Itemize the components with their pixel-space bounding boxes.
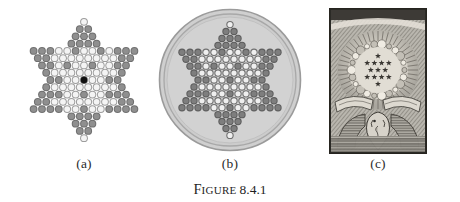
board-hole-dark	[118, 54, 126, 62]
board-hole-dark	[38, 62, 46, 70]
board-hole-light	[76, 54, 84, 62]
board-hole-dark	[84, 25, 92, 33]
board-hole-light	[63, 47, 71, 55]
board-hole-dark	[122, 62, 130, 70]
board-hole-dark	[30, 105, 38, 113]
board-hole-light	[110, 83, 118, 91]
board-hole-dark	[122, 47, 130, 55]
board-hole-light	[55, 62, 63, 70]
board-hole-dark	[230, 42, 237, 49]
board-hole-light	[210, 49, 217, 56]
board-hole-light	[97, 91, 105, 99]
board-hole-light	[76, 69, 84, 77]
board-hole-light	[254, 83, 261, 90]
board-hole-dark	[118, 98, 126, 106]
board-hole-light	[234, 104, 241, 111]
board-hole-light	[97, 62, 105, 70]
board-hole-dark	[105, 76, 113, 84]
board-hole-dark	[218, 49, 225, 56]
cloud-puff	[393, 87, 398, 92]
board-hole-dark	[230, 125, 237, 132]
board-hole-light	[80, 47, 88, 55]
board-hole-light	[202, 62, 209, 69]
board-hole-light	[68, 69, 76, 77]
board-hole-dark	[76, 25, 84, 33]
board-hole-light	[238, 56, 245, 63]
board-hole-dark	[262, 83, 269, 90]
board-hole-light	[51, 54, 59, 62]
board-hole-light	[218, 104, 225, 111]
board-hole-dark	[80, 105, 88, 113]
board-hole-light	[246, 56, 253, 63]
board-hole-dark	[262, 97, 269, 104]
board-hole-light	[234, 49, 241, 56]
board-hole-dark	[72, 32, 80, 40]
board-hole-dark	[76, 127, 84, 135]
board-hole-light	[218, 62, 225, 69]
cloud-puff	[401, 60, 406, 65]
board-hole-light	[89, 91, 97, 99]
board-hole-light	[55, 47, 63, 55]
board-hole-dark	[89, 32, 97, 40]
board-hole-light	[93, 98, 101, 106]
board-hole-dark	[190, 56, 197, 63]
board-hole-dark	[258, 104, 265, 111]
board-hole-dark	[262, 56, 269, 63]
board-hole-dark	[186, 104, 193, 111]
board-hole-dark	[210, 62, 217, 69]
board-hole-light	[59, 54, 67, 62]
board-hole-light	[84, 54, 92, 62]
board-hole-light	[222, 69, 229, 76]
board-hole-light	[250, 49, 257, 56]
board-hole-light	[105, 47, 113, 55]
board-hole-light	[68, 54, 76, 62]
board-hole-light	[242, 62, 249, 69]
board-hole-dark	[226, 118, 233, 125]
board-hole-dark	[194, 104, 201, 111]
board-hole-light	[89, 47, 97, 55]
board-hole-light	[202, 49, 209, 56]
board-hole-dark	[190, 97, 197, 104]
board-hole-dark	[38, 91, 46, 99]
board-hole-dark	[218, 118, 225, 125]
board-hole-light	[80, 18, 88, 26]
board-hole-dark	[250, 76, 257, 83]
board-hole-light	[84, 98, 92, 106]
board-hole-dark	[178, 104, 185, 111]
board-hole-light	[222, 83, 229, 90]
circular-board-svg	[157, 8, 303, 153]
board-hole-light	[230, 69, 237, 76]
board-hole-dark	[114, 47, 122, 55]
board-hole-dark	[72, 120, 80, 128]
board-hole-light	[230, 56, 237, 63]
board-hole-dark	[89, 120, 97, 128]
board-hole-light	[59, 69, 67, 77]
board-hole-light	[97, 105, 105, 113]
board-hole-dark	[114, 91, 122, 99]
sublabel-c: (c)	[308, 156, 448, 172]
board-hole-dark	[202, 104, 209, 111]
board-hole-dark	[258, 49, 265, 56]
board-hole-dark	[84, 127, 92, 135]
board-hole-dark	[55, 91, 63, 99]
figure-caption: FIGURE8.4.1	[0, 180, 460, 198]
board-hole-light	[206, 69, 213, 76]
board-hole-light	[80, 62, 88, 70]
center-peg-icon	[81, 77, 87, 83]
board-hole-dark	[42, 83, 50, 91]
board-hole-light	[222, 56, 229, 63]
board-hole-dark	[47, 76, 55, 84]
board-hole-dark	[72, 47, 80, 55]
board-hole-dark	[38, 105, 46, 113]
cloud-puff	[364, 44, 369, 49]
board-hole-dark	[230, 28, 237, 35]
board-hole-dark	[250, 104, 257, 111]
board-hole-dark	[234, 62, 241, 69]
board-hole-dark	[126, 54, 134, 62]
board-hole-light	[254, 69, 261, 76]
board-hole-light	[63, 91, 71, 99]
board-hole-light	[242, 76, 249, 83]
board-hole-dark	[76, 40, 84, 48]
board-hole-dark	[258, 62, 265, 69]
board-hole-dark	[63, 62, 71, 70]
